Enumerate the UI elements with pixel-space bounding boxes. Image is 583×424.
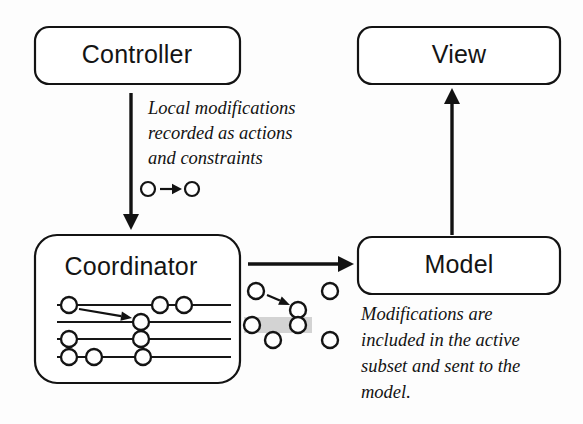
model-annotation-line-1: included in the active [361, 330, 520, 350]
legend-arrowhead-icon [172, 184, 182, 194]
timeline-event-3-0[interactable] [61, 349, 77, 365]
action-legend-glyph [141, 182, 199, 196]
architecture-diagram: Controller View Coordinator Model Local … [0, 0, 583, 424]
transfer-modification-arrow-line [267, 295, 280, 301]
transfer-scatter-group [244, 283, 338, 348]
transfer-node-6[interactable] [322, 332, 338, 348]
coordinator-to-model-arrowhead [338, 256, 354, 272]
transfer-node-5[interactable] [265, 332, 281, 348]
timeline-event-1-0[interactable] [133, 314, 149, 330]
controller-to-coordinator-arrowhead [123, 214, 139, 230]
transfer-node-0[interactable] [248, 283, 264, 299]
legend-target-circle-icon [185, 182, 199, 196]
view-box-label: View [432, 40, 487, 68]
controller-annotation-line-1: recorded as actions [148, 123, 293, 143]
timeline-event-3-2[interactable] [135, 349, 151, 365]
controller-annotation-line-0: Local modifications [147, 98, 296, 118]
transfer-node-4[interactable] [290, 317, 306, 333]
diagram-canvas: Controller View Coordinator Model Local … [0, 0, 583, 424]
model-annotation-line-2: subset and sent to the [361, 356, 520, 376]
timeline-event-0-1[interactable] [152, 297, 168, 313]
model-annotation-line-0: Modifications are [360, 304, 492, 324]
legend-source-circle-icon [141, 182, 155, 196]
model-to-view-arrowhead [444, 88, 460, 104]
timeline-event-0-0[interactable] [61, 297, 77, 313]
controller-annotation-line-2: and constraints [148, 148, 263, 168]
controller-box-label: Controller [82, 40, 192, 68]
transfer-node-3[interactable] [244, 317, 260, 333]
timeline-event-3-1[interactable] [86, 349, 102, 365]
timeline-event-2-1[interactable] [133, 331, 149, 347]
coordinator-box-label: Coordinator [65, 252, 198, 280]
timeline-event-0-2[interactable] [176, 297, 192, 313]
timeline-event-2-0[interactable] [61, 331, 77, 347]
transfer-node-2[interactable] [290, 302, 306, 318]
model-box-label: Model [424, 250, 493, 278]
model-annotation-line-3: model. [361, 382, 411, 402]
transfer-node-1[interactable] [322, 283, 338, 299]
